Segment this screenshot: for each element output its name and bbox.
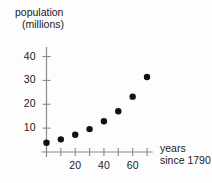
data-point — [101, 118, 107, 124]
population-scatter-chart: population (millions) years since 1790 1… — [0, 0, 212, 183]
data-point — [86, 126, 92, 132]
data-point — [72, 132, 78, 138]
y-axis-tick-label: 40 — [16, 50, 36, 62]
data-point — [58, 136, 64, 142]
data-point — [144, 74, 150, 80]
x-axis-tick-label: 60 — [122, 159, 144, 171]
x-axis-tick-label: 40 — [93, 159, 115, 171]
data-point — [43, 139, 49, 145]
x-axis-tick-label: 20 — [64, 159, 86, 171]
data-point — [129, 93, 135, 99]
y-axis-tick-label: 30 — [16, 73, 36, 85]
plot-area — [0, 0, 212, 183]
data-point — [115, 108, 121, 114]
y-axis-tick-label: 10 — [16, 121, 36, 133]
y-axis-tick-label: 20 — [16, 97, 36, 109]
